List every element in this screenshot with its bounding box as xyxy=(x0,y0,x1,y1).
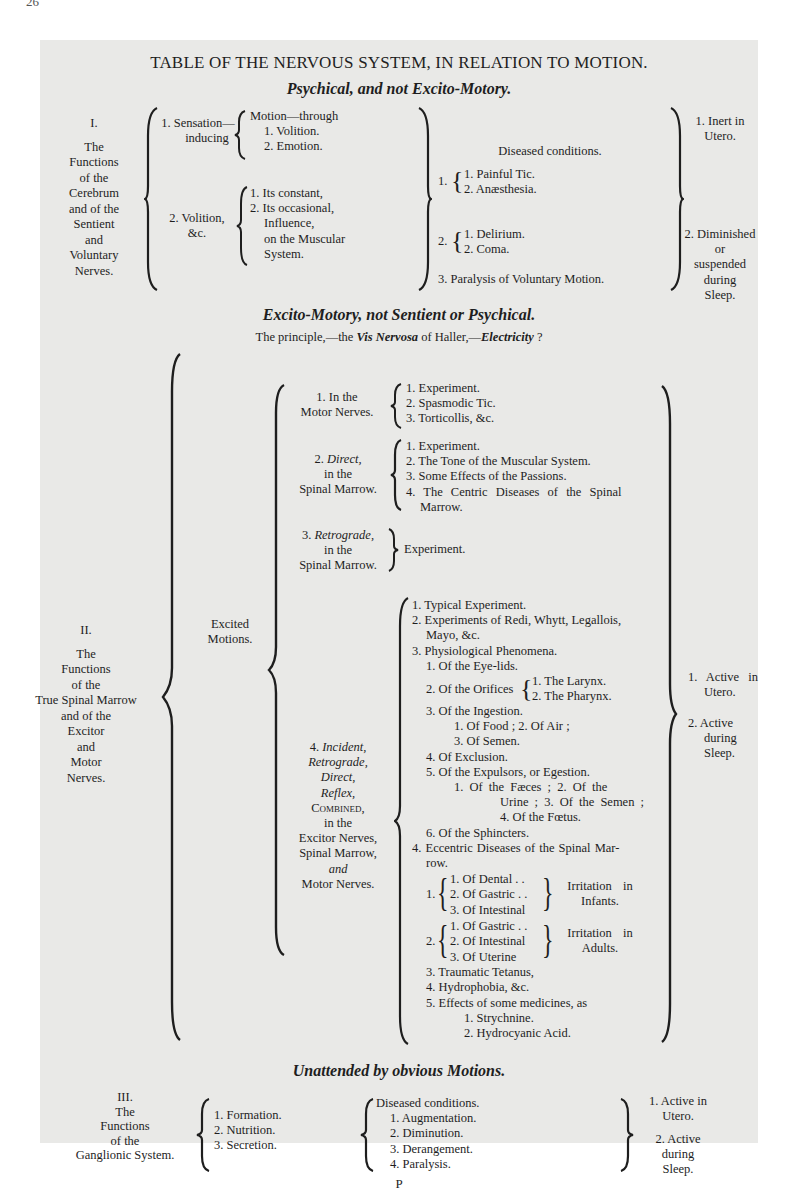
list-item: 2. Anæsthesia. xyxy=(464,182,537,197)
list-item: 1. Of the Eye-lids. xyxy=(412,659,644,674)
left-brace-icon xyxy=(196,1098,210,1172)
label-line: and xyxy=(30,740,142,756)
list-item: 1. Volition. xyxy=(250,124,338,139)
group-number: 2. xyxy=(426,934,435,949)
label-line: Irritation in xyxy=(560,926,640,941)
group-number: 2. xyxy=(438,234,447,249)
sensation-branch-title: 1. Sensation— inducing xyxy=(158,116,238,146)
list-item: 4. Paralysis. xyxy=(376,1157,479,1172)
group-items: 1. Painful Tic. 2. Anæsthesia. xyxy=(464,167,537,197)
right-brace-icon xyxy=(418,106,432,292)
list-item: 4. Of Exclusion. xyxy=(412,750,644,765)
list-item: on the Muscular xyxy=(250,232,345,247)
section-3-label: III. The Functions of the Ganglionic Sys… xyxy=(60,1090,190,1163)
sub-type: Direct, xyxy=(327,452,362,466)
sub-type: Retrograde, xyxy=(286,755,390,770)
sub-number: 4. xyxy=(310,740,319,754)
right-brace-icon xyxy=(660,384,678,1044)
sub-title-line: in the xyxy=(288,467,388,482)
list-item: 4. Hydrophobia, &c. xyxy=(412,980,644,995)
list-item: 1. Formation. xyxy=(214,1108,282,1123)
group-number: 1. xyxy=(426,887,435,902)
right-brace-icon xyxy=(620,1098,634,1172)
state-line: 2. Diminished xyxy=(682,227,758,242)
list-item: 3. Secretion. xyxy=(214,1138,282,1153)
state-line: 2. Active xyxy=(638,1132,718,1147)
right-brace-icon xyxy=(388,528,400,572)
state-line: suspended xyxy=(682,257,758,272)
sub-title-line: in the xyxy=(288,543,388,558)
list-item: 2. Its occasional, xyxy=(250,201,345,216)
roman-numeral: III. xyxy=(60,1090,190,1105)
group-label: Irritation in Infants. xyxy=(560,879,640,909)
group-items: 1. Of Dental . . 2. Of Gastric . . 3. Of… xyxy=(450,872,527,918)
state-line: Sleep. xyxy=(682,288,758,303)
state-line: 1. Active in xyxy=(688,670,758,685)
list-item: 4. Of the Fœtus. xyxy=(412,810,644,825)
list-item: 2. The Pharynx. xyxy=(532,689,612,704)
list-item: 2. Emotion. xyxy=(250,139,338,154)
state-active-sleep: 2. Active during Sleep. xyxy=(688,716,758,762)
label-line: Nerves. xyxy=(30,771,142,787)
left-brace-icon: { xyxy=(437,918,449,962)
sub-type: Incident, xyxy=(322,740,366,754)
sub-title-line: and xyxy=(286,862,390,877)
label-line: True Spinal Marrow xyxy=(30,693,142,709)
label-line: Nerves. xyxy=(44,264,144,280)
list-item: 1. Experiment. xyxy=(406,381,496,396)
diseased-heading: Diseased conditions. xyxy=(376,1096,479,1111)
left-brace-icon xyxy=(236,186,248,266)
list-item: 1. Typical Experiment. xyxy=(412,598,644,613)
diseased-item-3: 3. Paralysis of Voluntary Motion. xyxy=(438,272,604,287)
section-1-label: I. The Functions of the Cerebrum and of … xyxy=(44,116,144,279)
eccentric-group-2: 2. { 1. Of Gastric . . 2. Of Intestinal … xyxy=(412,918,644,965)
sub-motor-nerves-title: 1. In the Motor Nerves. xyxy=(290,390,384,420)
excited-line: Excited xyxy=(190,617,270,632)
left-brace-icon: { xyxy=(437,871,449,915)
left-brace-icon xyxy=(360,1098,374,1172)
section-2-label: II. The Functions of the True Spinal Mar… xyxy=(30,623,142,786)
state-line: Sleep. xyxy=(688,746,758,761)
list-item: 2. Diminution. xyxy=(376,1126,479,1141)
list-item: 1. Of the Fæces ; 2. Of the xyxy=(412,780,644,795)
sub-type: Retrograde, xyxy=(314,528,374,542)
list-item: 3. Of the Ingestion. xyxy=(412,704,644,719)
excited-line: Motions. xyxy=(190,632,270,647)
left-brace-icon: { xyxy=(451,228,463,254)
list-item: 2. Spasmodic Tic. xyxy=(406,396,496,411)
sub-type: Direct, xyxy=(286,770,390,785)
list-item: 2. Of Gastric . . xyxy=(450,887,527,902)
principle-text: ? xyxy=(534,330,543,344)
list-item: 3. Physiological Phenomena. xyxy=(412,644,644,659)
state-inert-in-utero: 1. Inert in Utero. xyxy=(682,114,758,144)
list-item: 2. Nutrition. xyxy=(214,1123,282,1138)
list-item: 1. Of Gastric . . xyxy=(450,919,527,934)
branch-title-line: inducing xyxy=(158,131,238,146)
sub-combined-items: 1. Typical Experiment. 2. Experiments of… xyxy=(412,598,644,1041)
sub-direct-items: 1. Experiment. 2. The Tone of the Muscul… xyxy=(406,439,622,515)
sub-type: Combined, xyxy=(286,801,390,816)
label-line: Excitor xyxy=(30,724,142,740)
section-3-state-utero: 1. Active in Utero. xyxy=(638,1094,718,1124)
label-line: and xyxy=(44,233,144,249)
principle-text: The principle,—the xyxy=(256,330,357,344)
state-diminished-sleep: 2. Diminished or suspended during Sleep. xyxy=(682,227,758,303)
label-line: of the xyxy=(60,1134,190,1149)
label-line: Irritation in xyxy=(560,879,640,894)
section-3-heading: Unattended by obvious Motions. xyxy=(40,1062,758,1080)
list-item: 1. Of Dental . . xyxy=(450,872,527,887)
state-line: 1. Active in xyxy=(638,1094,718,1109)
sub-number: 3. xyxy=(302,528,311,542)
list-item: 2. Of Intestinal xyxy=(450,934,527,949)
label-line: Sentient xyxy=(44,217,144,233)
sub-motor-nerves-items: 1. Experiment. 2. Spasmodic Tic. 3. Tort… xyxy=(406,381,496,427)
orifices-row: 2. Of the Orifices { 1. The Larynx. 2. T… xyxy=(412,674,644,704)
list-item: 1. Delirium. xyxy=(464,227,525,242)
left-brace-icon xyxy=(144,106,158,292)
branch-title-line: 2. Volition, xyxy=(162,211,232,226)
label-line: The xyxy=(60,1105,190,1120)
state-line: Utero. xyxy=(688,685,758,700)
branch-title-line: 1. Sensation— xyxy=(158,116,238,131)
list-item: 1. Its constant, xyxy=(250,186,345,201)
volition-branch-title: 2. Volition, &c. xyxy=(162,211,232,241)
